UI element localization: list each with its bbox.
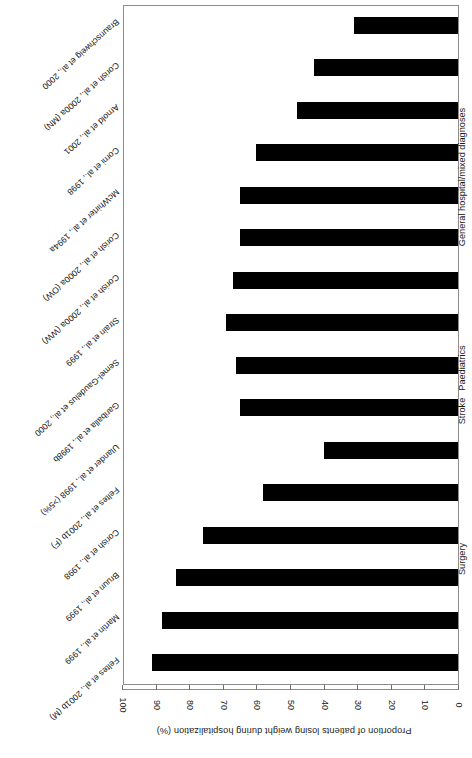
category-label: Feltes et al., 2001b (F): [50, 485, 122, 551]
bar[interactable]: [240, 399, 458, 416]
category-label: Martin et al., 1999: [63, 613, 122, 667]
bar[interactable]: [233, 272, 458, 289]
x-tickmark: [290, 685, 291, 690]
x-tick-label: 50: [286, 694, 296, 716]
x-tickmark: [223, 685, 224, 690]
bar-slot: [124, 527, 458, 544]
bar-series: [124, 6, 458, 684]
bar[interactable]: [152, 654, 458, 671]
x-tickmark: [156, 685, 157, 690]
bar-slot: [124, 484, 458, 501]
figure-rotation-wrapper: Proportion of patients losing weight dur…: [0, 0, 472, 758]
group-label: Paediatrics: [457, 288, 467, 448]
bar-slot: [124, 102, 458, 119]
category-label: Ulander et al., 1998 (>5%): [39, 443, 121, 519]
x-tick-label: 70: [219, 694, 229, 716]
category-label: Corish et al., 2000a (MN): [42, 60, 121, 133]
x-tick-label: 90: [152, 694, 162, 716]
bar-slot: [124, 144, 458, 161]
bar[interactable]: [297, 102, 458, 119]
bar[interactable]: [240, 187, 458, 204]
category-label: McWhirter et al., 1994a: [48, 188, 122, 256]
plot-area: [123, 5, 459, 685]
x-tick-label: 20: [387, 694, 397, 716]
x-tick-label: 40: [320, 694, 330, 716]
bar-slot: [124, 187, 458, 204]
bar[interactable]: [324, 442, 458, 459]
x-tickmark: [391, 685, 392, 690]
x-tickmark: [256, 685, 257, 690]
category-label: Bruun et al., 1999: [64, 570, 122, 623]
category-label: Corish et al., 2000a (OW): [41, 230, 121, 303]
category-label: Corish et al., 1998: [62, 528, 121, 583]
x-axis-tick-labels: 0102030405060708090100: [0, 688, 472, 714]
bar[interactable]: [176, 569, 458, 586]
x-tick-label: 100: [118, 694, 128, 716]
x-tick-label: 60: [252, 694, 262, 716]
x-tick-label: 80: [185, 694, 195, 716]
bar[interactable]: [256, 144, 458, 161]
x-tickmark: [122, 685, 123, 690]
bar-slot: [124, 272, 458, 289]
group-label: Surgery: [457, 480, 467, 640]
x-tick-label: 10: [420, 694, 430, 716]
category-label: Strain et al., 1999: [64, 315, 121, 368]
bar-slot: [124, 569, 458, 586]
bar-slot: [124, 314, 458, 331]
x-tickmark: [424, 685, 425, 690]
bar[interactable]: [203, 527, 458, 544]
bar-slot: [124, 357, 458, 374]
category-label: Gariballa et al., 1998b: [51, 400, 121, 464]
bar-chart-figure: Proportion of patients losing weight dur…: [0, 0, 472, 758]
x-tickmark: [357, 685, 358, 690]
bar-slot: [124, 442, 458, 459]
bar[interactable]: [354, 17, 458, 34]
category-label: Arnold et al., 2001: [62, 103, 121, 158]
bar-slot: [124, 229, 458, 246]
bar[interactable]: [162, 612, 458, 629]
group-label: General hospital/mixed diagnoses: [457, 97, 467, 257]
x-tickmark: [458, 685, 459, 690]
bar[interactable]: [240, 229, 458, 246]
bar[interactable]: [236, 357, 458, 374]
category-label: Semel-Gaudelus et al., 2000: [33, 358, 122, 439]
bar-slot: [124, 612, 458, 629]
bar[interactable]: [226, 314, 458, 331]
bar-slot: [124, 59, 458, 76]
bar[interactable]: [314, 59, 458, 76]
bar-slot: [124, 399, 458, 416]
category-label: Corish et al., 2000a (WW): [40, 273, 121, 347]
category-label: Corni et al., 1998: [65, 145, 121, 197]
x-tickmark: [324, 685, 325, 690]
bar-slot: [124, 654, 458, 671]
x-tick-label: 30: [353, 694, 363, 716]
x-tick-label: 0: [454, 694, 464, 716]
category-label: Braunschweig et al., 2000: [40, 18, 121, 92]
bar-slot: [124, 17, 458, 34]
x-tickmark: [189, 685, 190, 690]
bar[interactable]: [263, 484, 458, 501]
x-axis-title: Proportion of patients losing weight dur…: [114, 726, 454, 736]
